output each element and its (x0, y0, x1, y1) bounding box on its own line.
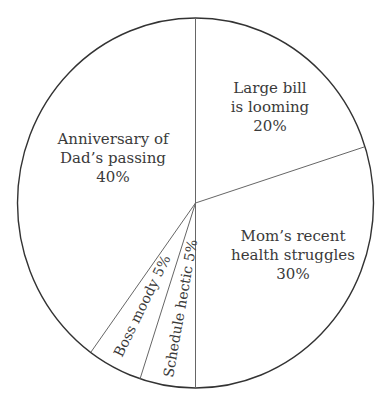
label-line: health struggles (231, 246, 355, 264)
label-line: is looming (231, 98, 310, 116)
label-line: Large bill (233, 79, 307, 97)
label-line: Anniversary of (56, 130, 170, 148)
label-line: Dad’s passing (60, 149, 166, 167)
label-percent: 20% (253, 117, 286, 135)
label-percent: 30% (276, 265, 309, 283)
label-line: Mom’s recent (241, 227, 346, 245)
label-percent: 40% (96, 168, 129, 186)
pie-chart: Large bill is looming 20% Anniversary of… (0, 0, 387, 402)
